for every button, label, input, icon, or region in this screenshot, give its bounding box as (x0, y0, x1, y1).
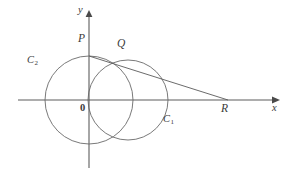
figure-canvas (0, 0, 286, 175)
geometry-figure: x y 0 P Q R C2 C1 (0, 0, 286, 175)
circle-label-c2-subscript: 2 (35, 59, 39, 67)
origin-label: 0 (80, 103, 85, 114)
circle-label-c1-subscript: 1 (171, 118, 175, 126)
circle-label-c1: C1 (163, 114, 174, 125)
point-label-p: P (78, 33, 85, 45)
circle-label-c2-base: C (27, 54, 34, 65)
point-label-q: Q (117, 38, 125, 50)
circle-label-c1-base: C (163, 113, 170, 124)
point-label-r: R (221, 103, 228, 115)
y-axis-label: y (78, 5, 83, 16)
x-axis-label: x (272, 103, 277, 114)
line-p-to-r (89, 56, 228, 100)
y-axis-arrowhead (86, 10, 93, 17)
circle-label-c2: C2 (27, 55, 38, 66)
x-axis (18, 97, 280, 104)
